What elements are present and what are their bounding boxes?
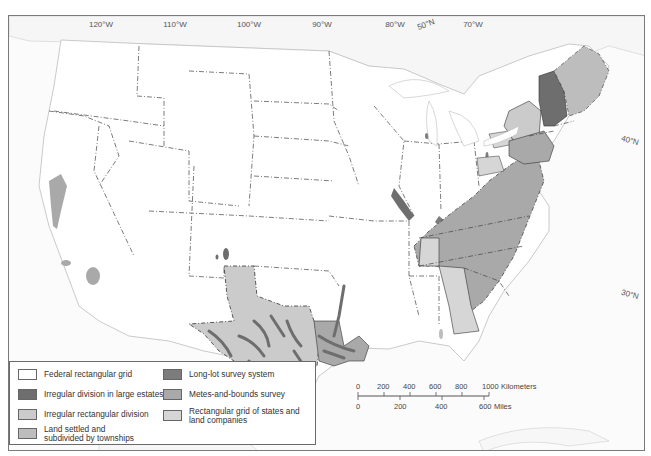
legend-label: Irregular division in large estates (44, 390, 163, 399)
lon-label-120w: 120°W (89, 20, 113, 29)
lon-label-100w: 100°W (237, 20, 261, 29)
scale-mi-0: 0 (356, 402, 360, 411)
scale-km-200: 200 (377, 382, 390, 391)
scale-km-0: 0 (356, 382, 360, 391)
legend-item-long-lot: Long-lot survey system (163, 369, 274, 380)
scale-km-800: 800 (455, 382, 468, 391)
scale-km-1000: 1000 (482, 382, 499, 391)
legend-label: Rectangular grid of states and land comp… (189, 407, 309, 424)
scale-km-unit: Kilometers (501, 382, 536, 391)
lon-label-70w: 70°W (463, 20, 483, 29)
legend-label: Metes-and-bounds survey (189, 390, 285, 399)
region-west-tennessee (419, 238, 439, 266)
lon-label-110w: 110°W (163, 20, 187, 29)
scale-km-400: 400 (403, 382, 416, 391)
legend-label: Federal rectangular grid (44, 370, 132, 379)
legend-item-irregular-rectangular: Irregular rectangular division (18, 409, 149, 420)
swatch-federal-grid (18, 369, 37, 380)
legend-item-metes-and-bounds: Metes-and-bounds survey (163, 389, 285, 400)
legend-item-townships: Land settled and subdivided by townships (18, 425, 144, 442)
region-new-mexico-1 (223, 248, 229, 260)
scale-mi-400: 400 (435, 402, 448, 411)
scale-km-600: 600 (429, 382, 442, 391)
swatch-states-companies (163, 410, 182, 421)
scale-mi-600: 600 (479, 402, 492, 411)
swatch-irregular-rectangular (18, 409, 37, 420)
swatch-metes-and-bounds (163, 389, 182, 400)
map-legend: Federal rectangular grid Irregular divis… (9, 361, 316, 445)
legend-item-large-estates: Irregular division in large estates (18, 389, 163, 400)
legend-label: Land settled and subdivided by townships (44, 425, 144, 442)
swatch-large-estates (18, 389, 37, 400)
region-florida-lake (439, 329, 443, 339)
scale-bar: 0 200 400 600 800 1000 Kilometers 0 200 … (355, 381, 545, 417)
region-california-south (86, 267, 100, 285)
cuba-outline (479, 428, 609, 451)
lon-label-80w: 80°W (385, 20, 405, 29)
swatch-long-lot (163, 369, 182, 380)
legend-label: Long-lot survey system (189, 370, 274, 379)
legend-item-states-companies: Rectangular grid of states and land comp… (163, 407, 309, 424)
scale-mi-unit: Miles (494, 402, 512, 411)
region-new-mexico-2 (216, 255, 219, 260)
legend-label: Irregular rectangular division (44, 410, 149, 419)
legend-item-federal-grid: Federal rectangular grid (18, 369, 132, 380)
scale-mi-200: 200 (394, 402, 407, 411)
region-california-coast (61, 260, 71, 266)
swatch-townships (18, 428, 37, 439)
lon-label-90w: 90°W (312, 20, 332, 29)
